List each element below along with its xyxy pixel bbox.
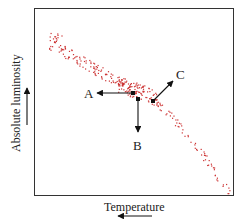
y-axis-label: Absolute luminosity: [9, 54, 23, 152]
x-axis-label: Temperature: [104, 200, 164, 214]
point-c: C: [151, 67, 185, 103]
label-a: A: [84, 86, 94, 101]
star-dots: [49, 33, 230, 194]
plot-frame: [35, 9, 234, 196]
point-b: B: [133, 97, 142, 153]
hr-diagram: A B C Absolute luminosity Temperature: [0, 0, 240, 223]
label-c: C: [176, 67, 185, 82]
label-b: B: [133, 138, 142, 153]
